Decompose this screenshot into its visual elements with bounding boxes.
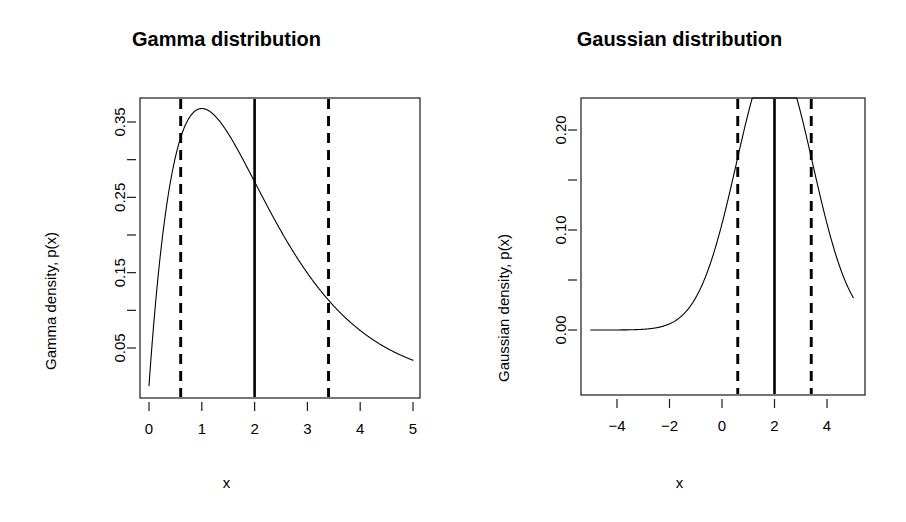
x-axis-ticks-gaussian bbox=[617, 399, 827, 408]
x-tick-labels-gamma: 012345 bbox=[145, 420, 417, 437]
plot-box-gaussian bbox=[581, 98, 865, 395]
x-tick-label-4: 4 bbox=[823, 417, 831, 434]
density-curve-path bbox=[149, 109, 413, 386]
x-axis-ticks-gamma bbox=[149, 402, 413, 411]
x-tick-labels-gaussian: −4−2024 bbox=[608, 417, 831, 434]
x-tick-label-0: 0 bbox=[718, 417, 726, 434]
y-tick-label-0.00: 0.00 bbox=[552, 315, 569, 344]
y-tick-label-0.10: 0.10 bbox=[552, 215, 569, 244]
x-tick-label-4: 4 bbox=[356, 420, 364, 437]
x-tick-label--2: −2 bbox=[661, 417, 678, 434]
x-tick-label-1: 1 bbox=[198, 420, 206, 437]
y-axis-label-gaussian: Gaussian density, p(x) bbox=[495, 234, 512, 382]
density-curve-gamma bbox=[149, 109, 413, 386]
y-axis-ticks-gaussian bbox=[568, 130, 577, 330]
x-tick-label-5: 5 bbox=[409, 420, 417, 437]
figure-root: Gamma distribution Gamma density, p(x) x… bbox=[0, 0, 906, 522]
panel-gaussian-distribution: Gaussian distribution x −4−2024 0.000.10… bbox=[453, 0, 906, 522]
vertical-reference-lines-gamma bbox=[181, 99, 329, 397]
x-tick-label-0: 0 bbox=[145, 420, 153, 437]
y-tick-label-0.25: 0.25 bbox=[111, 183, 128, 212]
density-curve-gaussian bbox=[591, 98, 854, 330]
x-tick-label-3: 3 bbox=[303, 420, 311, 437]
x-tick-label-2: 2 bbox=[250, 420, 258, 437]
y-axis-ticks-gamma bbox=[127, 122, 136, 348]
x-tick-label-2: 2 bbox=[770, 417, 778, 434]
y-tick-label-0.35: 0.35 bbox=[111, 107, 128, 136]
y-tick-labels-gamma: 0.050.150.250.35 bbox=[111, 107, 128, 362]
vertical-reference-lines-gaussian bbox=[738, 99, 812, 394]
y-tick-label-0.20: 0.20 bbox=[552, 115, 569, 144]
plot-area-gamma: 012345 0.050.150.250.35 bbox=[0, 0, 453, 522]
density-curve-path bbox=[591, 98, 854, 330]
y-tick-labels-gaussian: 0.000.100.20 bbox=[552, 115, 569, 344]
panel-gamma-distribution: Gamma distribution Gamma density, p(x) x… bbox=[0, 0, 453, 522]
plot-area-gaussian: −4−2024 0.000.100.20 bbox=[453, 0, 906, 522]
y-tick-label-0.15: 0.15 bbox=[111, 258, 128, 287]
x-tick-label--4: −4 bbox=[608, 417, 625, 434]
y-tick-label-0.05: 0.05 bbox=[111, 333, 128, 362]
